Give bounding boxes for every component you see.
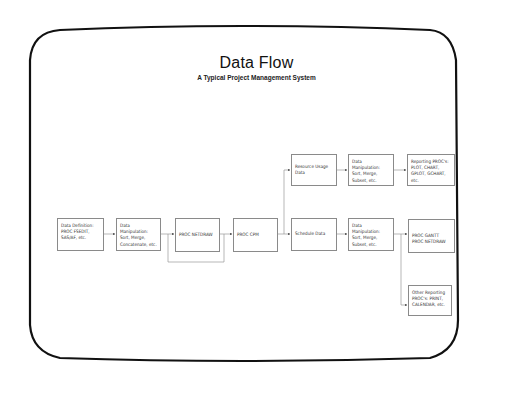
node-data-manipulation-1: Data Manipulation: Sort, Merge, Concaten… [116,218,161,251]
node-proc-cpm: PROC CPM [233,218,278,252]
connector-lines [0,0,513,407]
node-resource-usage-data: Resource Usage Data [291,154,337,186]
node-data-definition: Data Definition: PROC FSEDIT, SAS/AF, et… [57,218,104,251]
node-data-manipulation-2: Data Manipulation: Sort, Merge, Subset, … [348,154,394,186]
node-proc-gantt-netdraw: PROC GANTT PROC NETDRAW [408,219,455,253]
node-reporting-procs: Reporting PROC's: PLOT, CHART, GPLOT, GC… [407,154,455,186]
node-other-reporting: Other Reporting PROC's: PRINT, CALENDAR,… [408,285,452,316]
node-data-manipulation-3: Data Manipulation: Sort, Merge, Subset, … [348,218,394,251]
node-schedule-data: Schedule Data [291,218,337,251]
node-proc-netdraw: PROC NETDRAW [175,218,220,252]
